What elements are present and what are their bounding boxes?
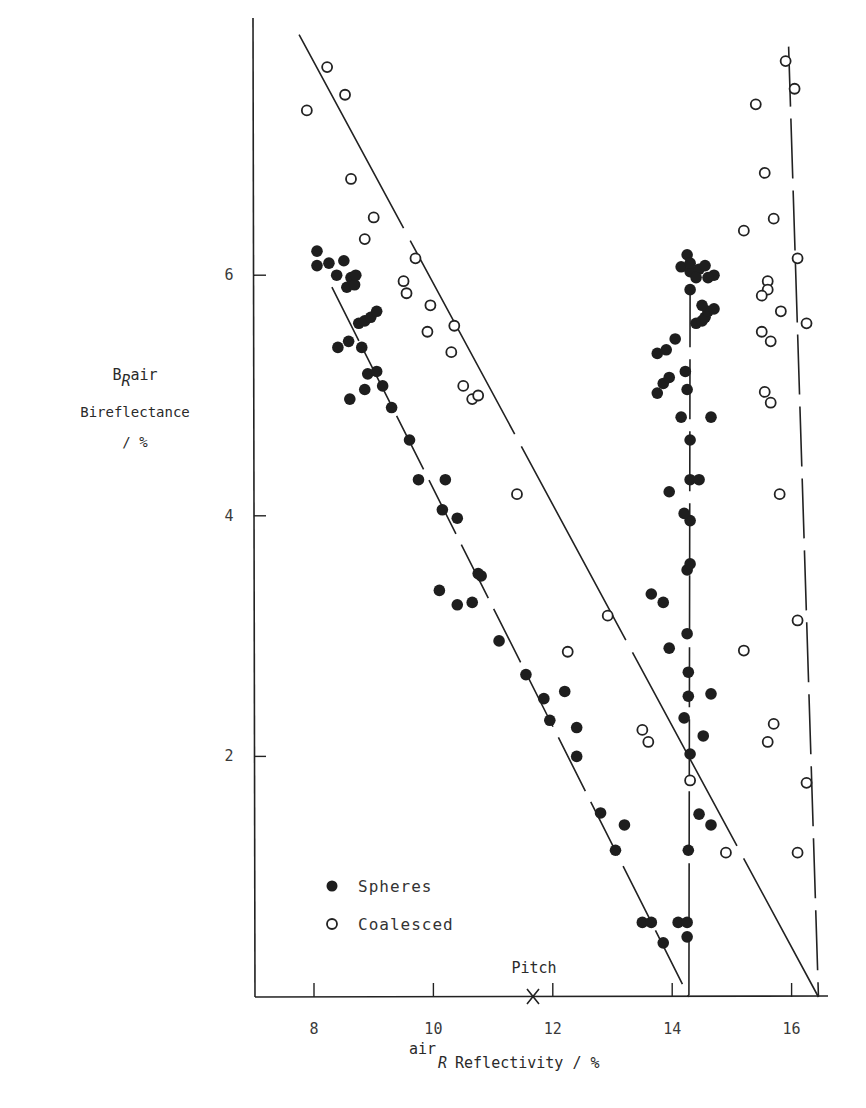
data-points (302, 56, 812, 949)
filled-circle-point (684, 284, 696, 296)
y-tick-label: 2 (224, 747, 233, 765)
open-circle-point (793, 615, 803, 625)
x-tick-label: 16 (783, 1020, 801, 1038)
open-circle-point (446, 347, 456, 357)
open-circle-point (721, 848, 731, 858)
filled-circle-point (697, 730, 709, 742)
filled-circle-point (475, 570, 487, 582)
open-circle-point (775, 489, 785, 499)
filled-circle-point (675, 411, 687, 423)
filled-circle-point (705, 411, 717, 423)
open-circle-point (637, 725, 647, 735)
filled-circle-point (663, 642, 675, 654)
filled-circle-point (451, 599, 463, 611)
axes (253, 18, 828, 997)
filled-circle-point (538, 693, 550, 705)
open-circle-point (781, 56, 791, 66)
filled-circle-point (690, 272, 702, 284)
x-axis (255, 996, 828, 997)
open-circle-point (643, 737, 653, 747)
legend-open-circle-icon (327, 919, 337, 929)
open-circle-point (769, 719, 779, 729)
filled-circle-point (683, 666, 695, 678)
y-label-name: Bireflectance (60, 405, 210, 419)
x-label-main: Reflectivity / % (446, 1054, 600, 1072)
filled-circle-point (683, 844, 695, 856)
open-circle-point (793, 848, 803, 858)
fit-line-coalesced (299, 35, 818, 997)
filled-circle-point (681, 931, 693, 943)
open-circle-point (473, 391, 483, 401)
open-circle-point (449, 321, 459, 331)
figure-caption (20, 1096, 866, 1108)
open-circle-point (369, 212, 379, 222)
open-circle-point (512, 489, 522, 499)
open-circle-point (739, 646, 749, 656)
open-circle-point (410, 253, 420, 263)
series-spheres (311, 245, 720, 948)
filled-circle-point (440, 474, 452, 486)
open-circle-point (685, 775, 695, 785)
filled-circle-point (678, 712, 690, 724)
filled-circle-point (657, 597, 669, 609)
x-tick-label: 12 (544, 1020, 562, 1038)
filled-circle-point (705, 819, 717, 831)
filled-circle-point (663, 372, 675, 384)
filled-circle-point (371, 366, 383, 378)
filled-circle-point (338, 255, 350, 267)
legend-coalesced: Coalesced (358, 915, 454, 934)
y-label-symbol: BRair (60, 368, 210, 389)
filled-circle-point (619, 819, 631, 831)
filled-circle-point (660, 344, 672, 356)
filled-circle-point (559, 686, 571, 698)
filled-circle-point (343, 336, 355, 348)
y-label-sup: air (130, 366, 157, 384)
scatter-chart: 810121416246 Pitch Spheres Coalesced air… (0, 0, 866, 1108)
y-tick-label: 4 (224, 507, 233, 525)
filled-circle-point (684, 558, 696, 570)
filled-circle-point (404, 434, 416, 446)
open-circle-point (739, 226, 749, 236)
filled-circle-point (663, 486, 675, 498)
filled-circle-point (646, 588, 658, 600)
legend-filled-circle-icon (327, 881, 338, 892)
filled-circle-point (678, 508, 690, 520)
open-circle-point (790, 84, 800, 94)
filled-circle-point (437, 504, 449, 516)
legend-spheres: Spheres (358, 877, 432, 896)
filled-circle-point (680, 366, 692, 378)
filled-circle-point (544, 715, 556, 727)
filled-circle-point (434, 585, 446, 597)
open-circle-point (793, 253, 803, 263)
filled-circle-point (646, 917, 658, 929)
filled-circle-point (359, 384, 371, 396)
open-circle-point (603, 611, 613, 621)
open-circle-point (399, 276, 409, 286)
y-label-unit: / % (60, 435, 210, 449)
open-circle-point (425, 300, 435, 310)
open-circle-point (766, 398, 776, 408)
filled-circle-point (595, 807, 607, 819)
open-circle-point (751, 99, 761, 109)
filled-circle-point (356, 342, 368, 354)
open-circle-point (402, 288, 412, 298)
x-tick-label: 8 (309, 1020, 318, 1038)
legend: Spheres Coalesced (327, 877, 454, 934)
filled-circle-point (377, 380, 389, 392)
open-circle-point (757, 291, 767, 301)
y-axis (253, 18, 255, 997)
open-circle-point (760, 387, 770, 397)
filled-circle-point (651, 387, 663, 399)
filled-circle-point (466, 597, 478, 609)
filled-circle-point (350, 269, 362, 281)
filled-circle-point (413, 474, 425, 486)
filled-circle-point (681, 628, 693, 640)
open-circle-point (763, 737, 773, 747)
open-circle-point (458, 381, 468, 391)
filled-circle-point (657, 937, 669, 949)
filled-circle-point (311, 260, 323, 272)
filled-circle-point (610, 844, 622, 856)
open-circle-point (757, 327, 767, 337)
filled-circle-point (571, 722, 583, 734)
pitch-label: Pitch (511, 959, 556, 977)
